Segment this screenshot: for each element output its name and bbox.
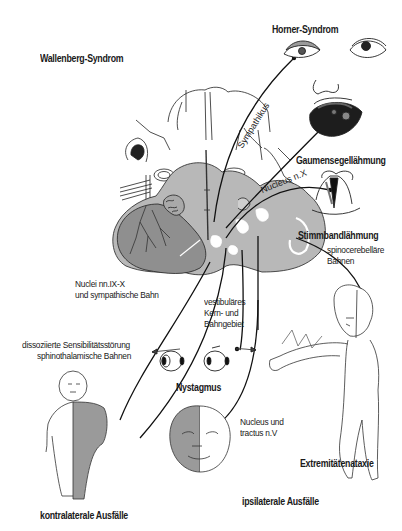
label-kontralaterale-ausfaelle: kontralaterale Ausfälle	[40, 510, 128, 521]
label-trigeminus-2: tractus n.V	[240, 427, 277, 438]
label-vestibular-2: Kern- und	[204, 307, 238, 318]
label-gaumensegellaehmung: Gaumensegellähmung	[296, 155, 386, 166]
label-horner-syndrom: Horner-Syndrom	[272, 24, 338, 35]
label-nuclei-ix-x-1: Nuclei nn.IX-X	[75, 278, 125, 289]
label-ipsilaterale-ausfaelle: ipsilaterale Ausfälle	[242, 496, 319, 507]
label-vestibular-3: Bahngebiet	[204, 318, 244, 329]
ataxia-child-illustration	[269, 285, 378, 480]
label-vestibular-1: vestibuläres	[204, 296, 245, 307]
diagram-title: Wallenberg-Syndrom	[40, 53, 123, 64]
horner-eyes-illustration	[284, 39, 386, 137]
label-trigeminus-1: Nucleus und	[240, 416, 284, 427]
label-spinocerebellar-2: Bahnen	[327, 255, 354, 266]
ipsilateral-face-illustration	[170, 406, 230, 472]
label-extremitaetenataxie: Extremitätenataxie	[300, 458, 374, 469]
label-stimmbandlaehmung: Stimmbandlähmung	[298, 230, 378, 241]
contralateral-body-illustration	[46, 371, 107, 499]
label-nuclei-ix-x-2: und sympathische Bahn	[75, 289, 159, 300]
label-nystagmus: Nystagmus	[176, 382, 221, 393]
label-spinocerebellar-1: spinocerebelläre	[327, 244, 384, 255]
label-dissoziiert-2: sphinothalamische Bahnen	[37, 350, 131, 361]
label-dissoziiert-1: dissoziierte Sensibilitätsstörung	[22, 339, 130, 350]
